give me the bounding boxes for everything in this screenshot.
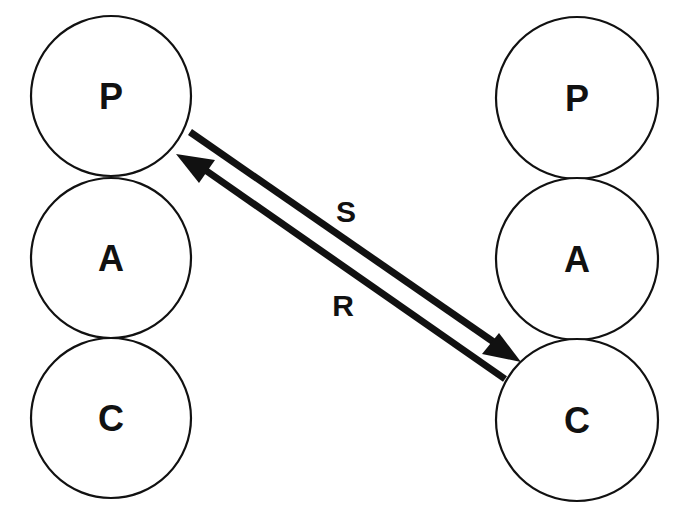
left-parent-label: P [99, 76, 123, 117]
right-parent-label: P [565, 78, 589, 119]
right-child-label: C [564, 400, 590, 441]
right-parent-state: P [496, 17, 658, 179]
stimulus-label: S [336, 195, 356, 228]
left-parent-state: P [31, 16, 191, 176]
ta-diagram: P A C P A C S R [0, 0, 681, 517]
left-child-label: C [98, 398, 124, 439]
right-person-ego-states: P A C [496, 17, 658, 501]
right-child-state: C [496, 339, 658, 501]
left-adult-label: A [98, 238, 124, 279]
response-arrow: R [176, 154, 505, 379]
left-child-state: C [31, 338, 191, 498]
left-person-ego-states: P A C [31, 16, 191, 498]
right-adult-label: A [564, 239, 590, 280]
response-label: R [332, 289, 354, 322]
response-arrowhead-icon [176, 154, 215, 183]
right-adult-state: A [496, 178, 658, 340]
stimulus-arrow: S [190, 132, 521, 362]
left-adult-state: A [31, 178, 191, 338]
